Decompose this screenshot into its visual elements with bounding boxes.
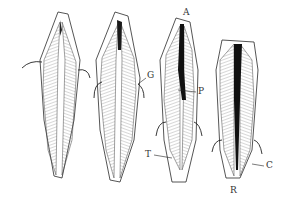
gum-line-right: [254, 140, 262, 154]
leader-G: [138, 78, 146, 84]
label-C: C: [266, 161, 273, 170]
gum-line-left: [156, 122, 166, 136]
gum-line-left: [22, 62, 42, 68]
tooth-1: [22, 12, 90, 178]
label-R: R: [230, 186, 237, 195]
label-P: P: [198, 87, 204, 96]
label-A: A: [183, 8, 190, 17]
tooth-diagram: [0, 0, 293, 199]
gum-line-left: [212, 140, 222, 152]
gum-line-right: [194, 122, 202, 136]
gum-line-right: [78, 70, 90, 78]
tooth-4: [212, 40, 264, 178]
tooth-2: [94, 12, 146, 182]
tooth-3: [154, 18, 202, 182]
leader-T: [154, 155, 172, 158]
label-T: T: [145, 150, 151, 159]
label-G: G: [147, 71, 154, 80]
leader-C: [252, 164, 264, 166]
